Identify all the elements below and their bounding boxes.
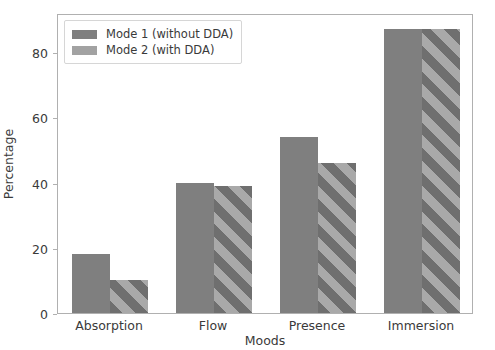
x-tick-label-presence: Presence [289,318,346,333]
legend-label-series-2: Mode 2 (with DDA) [106,43,214,57]
y-tick-mark [53,184,57,185]
x-axis-label: Moods [245,333,286,348]
legend-item: Mode 2 (with DDA) [72,42,233,58]
bar-flow-series-1 [176,183,214,313]
x-tick-label-flow: Flow [199,318,228,333]
chart-legend: Mode 1 (without DDA) Mode 2 (with DDA) [64,20,242,64]
legend-swatch-series-2 [72,46,97,55]
y-tick-mark [53,118,57,119]
bar-absorption-series-1 [72,254,110,313]
bar-immersion-series-2 [422,29,460,313]
y-tick-label: 40 [32,176,48,191]
legend-label-series-1: Mode 1 (without DDA) [106,27,233,41]
bar-presence-series-2 [318,163,356,313]
legend-swatch-series-1 [72,30,97,39]
figure-canvas: Percentage Moods 020406080AbsorptionFlow… [0,0,495,350]
y-tick-mark [53,249,57,250]
legend-item: Mode 1 (without DDA) [72,26,233,42]
y-tick-mark [53,53,57,54]
y-tick-mark [53,314,57,315]
x-tick-label-absorption: Absorption [75,318,143,333]
bar-presence-series-1 [280,137,318,313]
y-tick-label: 60 [32,111,48,126]
bar-flow-series-2 [214,186,252,313]
x-tick-label-immersion: Immersion [388,318,454,333]
bar-absorption-series-2 [110,280,148,313]
y-tick-label: 80 [32,46,48,61]
y-tick-label: 20 [32,241,48,256]
y-axis-label: Percentage [1,129,16,199]
bar-immersion-series-1 [384,29,422,313]
y-tick-label: 0 [40,307,48,322]
